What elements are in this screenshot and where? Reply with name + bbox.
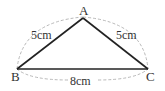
vertex-label-a: A: [79, 3, 89, 18]
side-ab: [17, 18, 83, 69]
side-ac: [83, 18, 148, 69]
side-label-ab: 5cm: [31, 28, 52, 42]
vertex-label-c: C: [146, 69, 155, 84]
vertex-label-b: B: [11, 69, 20, 84]
side-label-ac: 5cm: [116, 28, 137, 42]
dimension-arc-bc-right: [98, 69, 148, 80]
triangle-diagram: A B C 5cm 5cm 8cm: [0, 0, 165, 91]
side-label-bc: 8cm: [70, 74, 91, 88]
dimension-arc-bc-left: [17, 69, 68, 80]
